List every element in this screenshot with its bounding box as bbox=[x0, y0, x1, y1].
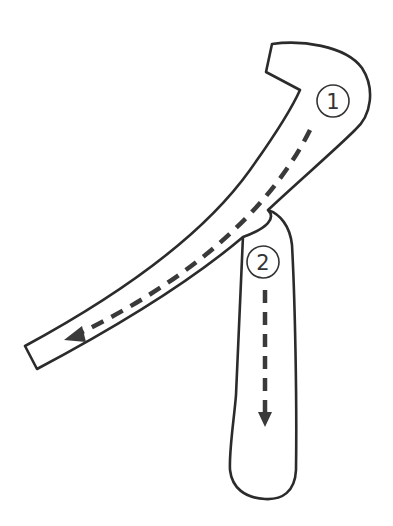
svg-text:2: 2 bbox=[256, 251, 269, 275]
stroke-order-diagram: 1 2 bbox=[0, 0, 393, 526]
stroke-1-number-marker: 1 bbox=[317, 85, 349, 117]
stroke-1-outline bbox=[25, 43, 370, 369]
stroke-2-number-marker: 2 bbox=[247, 246, 279, 278]
svg-text:1: 1 bbox=[326, 90, 339, 114]
